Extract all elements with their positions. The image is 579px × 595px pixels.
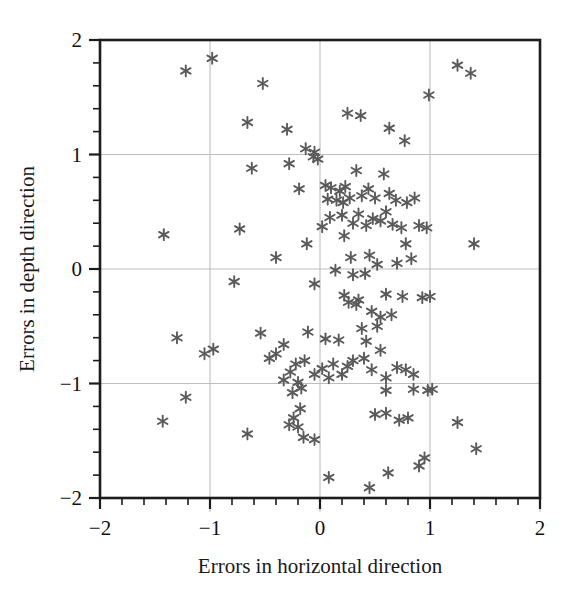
x-tick-label: −2 (89, 516, 111, 540)
plot-svg: −2−1012 −2−1012 Errors in horizontal dir… (0, 0, 579, 595)
y-tick-label: −1 (60, 372, 82, 396)
scatter-plot-figure: −2−1012 −2−1012 Errors in horizontal dir… (0, 0, 579, 595)
y-tick-label: −2 (60, 486, 82, 510)
x-tick-label: 2 (535, 516, 546, 540)
x-tick-label: 1 (425, 516, 436, 540)
y-tick-label: 0 (72, 257, 83, 281)
y-axis-title: Errors in depth direction (15, 166, 39, 372)
x-tick-label: 0 (315, 516, 326, 540)
x-axis-title: Errors in horizontal direction (198, 554, 443, 578)
plot-background (0, 0, 579, 595)
y-tick-label: 2 (72, 28, 83, 52)
x-tick-label: −1 (199, 516, 221, 540)
y-tick-label: 1 (72, 143, 83, 167)
